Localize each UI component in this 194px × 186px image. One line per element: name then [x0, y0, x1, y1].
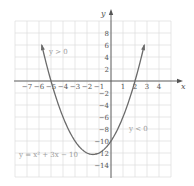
y-tick-label: 2: [105, 66, 109, 74]
region-positive-label: y > 0: [48, 48, 68, 56]
y-axis-label: y: [100, 9, 106, 18]
y-tick-label: 8: [105, 30, 109, 38]
y-tick-label: −8: [99, 126, 109, 134]
parabola-path: [42, 45, 144, 154]
y-tick-label: −10: [94, 138, 109, 146]
y-tick-label: −14: [94, 162, 109, 170]
x-tick-label: −7: [22, 83, 32, 91]
x-tick-label: −3: [70, 83, 80, 91]
parabola-chart: −7−6−5−4−3−2−112348642−2−4−6−8−10−12−14 …: [0, 0, 194, 186]
x-tick-label: −4: [58, 83, 69, 91]
x-tick-label: −5: [46, 83, 56, 91]
x-tick-label: 1: [121, 83, 125, 91]
y-tick-label: −2: [99, 90, 109, 98]
x-tick-label: −2: [82, 83, 92, 91]
y-axis-arrow-icon: [109, 9, 113, 15]
x-tick-label: 3: [145, 83, 149, 91]
y-tick-label: −6: [99, 114, 110, 122]
y-tick-label: −4: [99, 102, 110, 110]
y-tick-label: 6: [105, 42, 110, 50]
region-negative-label: y < 0: [128, 125, 148, 133]
equation-label: y = x² + 3x − 10: [18, 151, 78, 159]
x-tick-label: −6: [34, 83, 45, 91]
parabola-curve: [41, 44, 145, 155]
x-axis-label: x: [181, 82, 186, 91]
x-tick-label: 4: [157, 83, 162, 91]
y-tick-label: 4: [105, 54, 110, 62]
